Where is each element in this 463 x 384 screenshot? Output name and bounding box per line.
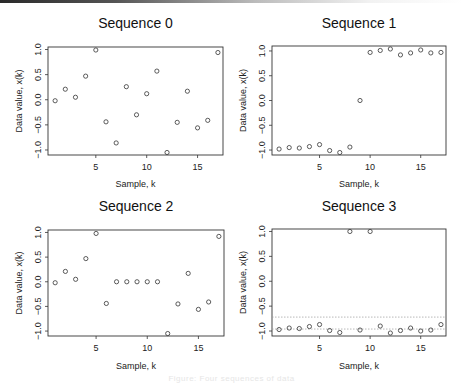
data-point [186, 271, 190, 275]
y-tick-label: 0.0 [33, 93, 43, 106]
x-tick-label: 5 [317, 162, 322, 172]
data-point [358, 328, 362, 332]
data-point [185, 89, 189, 93]
y-tick-label: 0.5 [33, 68, 43, 81]
data-point [63, 87, 67, 91]
x-axis-label: Sample, k [339, 361, 380, 371]
plot-frame [48, 47, 223, 155]
x-tick-label: 10 [142, 162, 152, 172]
y-tick-label: 0.0 [257, 94, 267, 107]
data-point [287, 326, 291, 330]
data-point [175, 120, 179, 124]
y-tick-label: −0.5 [257, 116, 267, 134]
data-point [206, 118, 210, 122]
data-point [348, 145, 352, 149]
data-point [429, 51, 433, 55]
data-point [124, 85, 128, 89]
data-point [155, 280, 159, 284]
plot-frame [272, 229, 446, 336]
x-tick-label: 15 [193, 343, 203, 353]
x-axis-label: Sample, k [339, 179, 380, 189]
data-point [307, 144, 311, 148]
y-tick-label: 1.0 [257, 225, 267, 238]
y-tick-label: 1.0 [257, 45, 267, 58]
data-point [297, 146, 301, 150]
y-tick-label: −0.5 [33, 298, 43, 316]
data-point [348, 229, 352, 233]
data-point [196, 307, 200, 311]
chart-title: Sequence 3 [322, 198, 397, 214]
data-point [388, 47, 392, 51]
data-point [408, 326, 412, 330]
data-point [84, 256, 88, 260]
chart-panel-0: Sequence 051015−1.0−0.50.00.51.0Sample, … [14, 15, 223, 189]
x-tick-label: 15 [416, 162, 426, 172]
x-tick-label: 5 [94, 343, 99, 353]
data-point [53, 99, 57, 103]
x-tick-label: 10 [365, 343, 375, 353]
data-point [94, 48, 98, 52]
y-tick-label: −0.5 [257, 297, 267, 315]
data-point [317, 142, 321, 146]
figure-canvas: Sequence 051015−1.0−0.50.00.51.0Sample, … [0, 0, 463, 384]
data-point [84, 74, 88, 78]
x-tick-label: 15 [416, 343, 426, 353]
y-tick-label: −1.0 [257, 322, 267, 340]
y-tick-label: −0.5 [33, 116, 43, 134]
data-point [63, 269, 67, 273]
y-tick-label: 0.5 [33, 251, 43, 264]
data-point [419, 48, 423, 52]
x-axis-label: Sample, k [115, 179, 156, 189]
x-tick-label: 5 [93, 162, 98, 172]
data-point [277, 147, 281, 151]
figure-caption: Figure: Four sequences of data [0, 374, 463, 383]
y-tick-label: −1.0 [33, 322, 43, 340]
data-point [145, 280, 149, 284]
x-axis-label: Sample, k [116, 361, 157, 371]
data-point [114, 280, 118, 284]
y-tick-label: 0.5 [257, 250, 267, 263]
data-point [217, 234, 221, 238]
data-point [166, 331, 170, 335]
data-point [287, 145, 291, 149]
x-tick-label: 15 [193, 162, 203, 172]
data-point [317, 322, 321, 326]
data-point [195, 126, 199, 130]
y-tick-label: −1.0 [257, 141, 267, 159]
data-point [388, 331, 392, 335]
y-tick-label: 1.0 [33, 43, 43, 56]
data-point [125, 280, 129, 284]
data-point [368, 50, 372, 54]
data-point [368, 229, 372, 233]
data-point [53, 281, 57, 285]
y-tick-label: 1.0 [33, 226, 43, 239]
y-axis-label: Data value, x(k) [14, 69, 24, 132]
data-point [176, 302, 180, 306]
data-point [73, 95, 77, 99]
data-point [338, 330, 342, 334]
y-axis-label: Data value, x(k) [14, 251, 24, 314]
data-point [328, 148, 332, 152]
data-point [207, 300, 211, 304]
y-axis-label: Data value, x(k) [238, 251, 248, 314]
data-point [307, 324, 311, 328]
chart-panel-1: Sequence 151015−1.0−0.50.00.51.0Sample, … [238, 15, 446, 189]
data-point [104, 120, 108, 124]
data-point [94, 231, 98, 235]
data-point [338, 150, 342, 154]
data-point [114, 141, 118, 145]
data-point [358, 98, 362, 102]
chart-title: Sequence 1 [322, 15, 397, 31]
y-tick-label: 0.5 [257, 69, 267, 82]
data-point [145, 92, 149, 96]
data-point [135, 280, 139, 284]
data-point [408, 51, 412, 55]
plot-frame [272, 46, 446, 155]
y-tick-label: 0.0 [257, 275, 267, 288]
x-tick-label: 10 [142, 343, 152, 353]
data-point [134, 113, 138, 117]
y-axis-label: Data value, x(k) [238, 69, 248, 132]
chart-title: Sequence 2 [99, 198, 174, 214]
data-point [419, 329, 423, 333]
chart-panel-3: Sequence 351015−1.0−0.50.00.51.0Sample, … [238, 198, 446, 371]
